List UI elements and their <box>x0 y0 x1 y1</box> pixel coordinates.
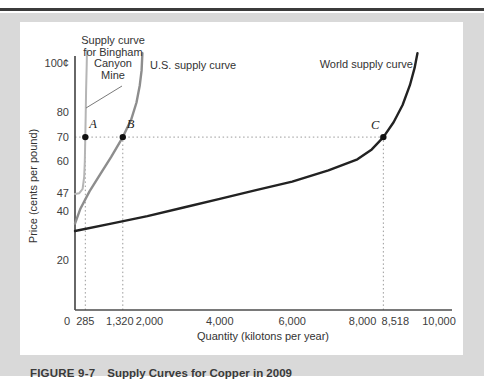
y-tick-label: 47 <box>57 187 69 199</box>
x-tick-label: 6,000 <box>278 315 306 327</box>
bingham-curve-label: Mine <box>101 69 125 81</box>
bingham-label-pointer-line <box>86 86 122 108</box>
y-tick-label: 100¢ <box>45 57 69 69</box>
x-tick-label: 10,000 <box>422 315 456 327</box>
x-tick-label: 285 <box>76 315 94 327</box>
y-axis-title: Price (cents per pound) <box>27 129 39 243</box>
bingham-curve-label: Supply curve <box>81 34 145 46</box>
y-tick-label: 70 <box>57 131 69 143</box>
key-point-label: A <box>88 117 97 131</box>
chart-panel: 100¢80706047402002851,3202,0004,0006,000… <box>20 22 463 355</box>
key-point-dot <box>380 134 386 140</box>
x-tick-label: 8,000 <box>349 315 377 327</box>
key-point-dot <box>120 134 126 140</box>
figure-top-rule <box>0 8 484 11</box>
bingham-curve-label: for Bingham <box>83 46 142 58</box>
figure-caption: FIGURE 9-7Supply Curves for Copper in 20… <box>30 367 470 379</box>
x-tick-label: 8,518 <box>382 315 410 327</box>
us-curve-label: U.S. supply curve <box>150 59 236 71</box>
bingham-curve-label: Canyon <box>94 57 132 69</box>
key-point-label: B <box>127 117 135 131</box>
x-tick-label: 0 <box>64 315 70 327</box>
world-curve-label: World supply curve <box>320 58 413 70</box>
supply-curves-chart: 100¢80706047402002851,3202,0004,0006,000… <box>20 22 463 355</box>
world-supply-curve <box>75 53 418 231</box>
y-tick-label: 60 <box>57 155 69 167</box>
y-tick-label: 80 <box>57 106 69 118</box>
y-tick-label: 40 <box>57 205 69 217</box>
figure-title: Supply Curves for Copper in 2009 <box>107 367 292 379</box>
bingham-supply-curve <box>75 51 87 194</box>
y-tick-label: 20 <box>57 254 69 266</box>
key-point-dot <box>82 134 88 140</box>
x-tick-label: 2,000 <box>136 315 164 327</box>
x-tick-label: 1,320 <box>106 315 134 327</box>
key-point-label: C <box>371 118 380 132</box>
x-axis-title: Quantity (kilotons per year) <box>197 330 329 342</box>
x-tick-label: 4,000 <box>206 315 234 327</box>
figure-number: FIGURE 9-7 <box>30 367 95 379</box>
